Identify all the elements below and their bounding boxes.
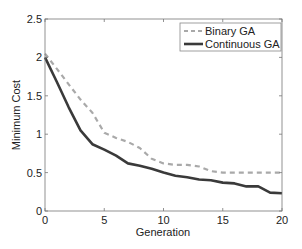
series-line-continuous-ga (45, 57, 282, 193)
y-axis-title: Minimum Cost (10, 80, 22, 150)
legend-label-continuous-ga: Continuous GA (205, 38, 280, 50)
y-tick-label: 0.5 (27, 167, 42, 179)
y-tick-label: 0 (36, 205, 42, 217)
x-tick-label: 15 (217, 214, 229, 226)
y-tick-label: 1 (36, 128, 42, 140)
plot-area (45, 54, 282, 194)
x-tick-label: 20 (276, 214, 288, 226)
x-tick-label: 10 (157, 214, 169, 226)
x-tick-label: 5 (101, 214, 107, 226)
y-tick-label: 2.5 (27, 13, 42, 25)
line-chart: 0510152000.511.522.5 Generation Minimum … (0, 0, 302, 249)
legend-label-binary-ga: Binary GA (205, 25, 256, 37)
x-tick-label: 0 (42, 214, 48, 226)
x-axis-title: Generation (136, 226, 190, 238)
legend: Binary GA Continuous GA (180, 23, 281, 51)
y-tick-label: 1.5 (27, 90, 42, 102)
series-line-binary-ga (45, 54, 282, 173)
y-tick-label: 2 (36, 51, 42, 63)
